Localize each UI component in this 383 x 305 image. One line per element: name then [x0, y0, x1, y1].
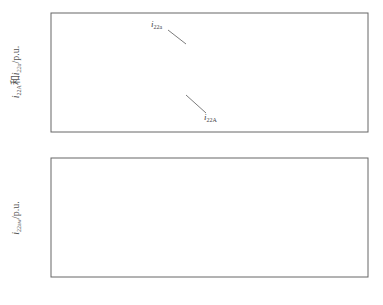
svg-text:i22A: i22A: [204, 112, 218, 123]
annotation-i22A: i22A: [186, 95, 218, 123]
svg-text:i22a: i22a: [151, 19, 163, 30]
top-plot: i22A和i22a/p.u. i22a i22A: [10, 13, 368, 132]
top-plot-frame: [51, 13, 368, 132]
bottom-y-axis-title: i22aw/p.u.: [10, 201, 22, 235]
bottom-plot-frame: [51, 158, 368, 277]
top-y-axis-title: i22A和i22a/p.u.: [10, 46, 22, 99]
figure: i22A和i22a/p.u. i22a i22A i22aw/p.u.: [0, 0, 383, 305]
bottom-plot: i22aw/p.u.: [10, 158, 368, 277]
annotation-i22a: i22a: [151, 19, 186, 44]
